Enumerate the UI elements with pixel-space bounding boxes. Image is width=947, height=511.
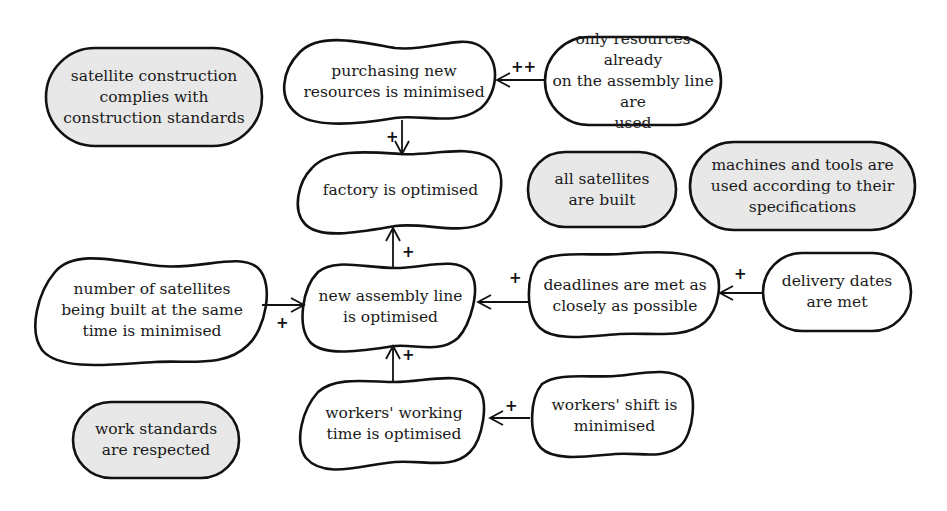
edge-label-working-time-assembly: + — [402, 348, 415, 363]
edge-number-to-assembly — [262, 298, 304, 312]
node-purchasing-minimised: purchasing new resources is minimised — [288, 42, 500, 122]
node-deadlines-met: deadlines are met as closely as possible — [530, 256, 720, 336]
node-only-resources-used: only resources already on the assembly l… — [545, 37, 721, 125]
node-satellite-construction-standards: satellite construction complies with con… — [46, 48, 262, 146]
edge-label-number-assembly: + — [276, 316, 289, 331]
node-machines-tools-specifications: machines and tools are used according to… — [690, 142, 915, 230]
node-number-satellites-minimised: number of satellites being built at the … — [36, 258, 268, 362]
node-delivery-dates-met: delivery dates are met — [763, 253, 911, 331]
edge-label-deadlines-assembly: + — [509, 271, 522, 286]
edge-working-time-to-assembly — [386, 346, 400, 382]
edge-label-assembly-factory: + — [402, 245, 415, 260]
edge-assembly-to-factory — [386, 228, 400, 268]
node-all-satellites-built: all satellites are built — [528, 152, 676, 227]
node-new-assembly-line-optimised: new assembly line is optimised — [303, 266, 478, 348]
edge-deadlines-to-assembly — [478, 295, 530, 309]
edge-label-only-resources-purchasing: ++ — [511, 60, 536, 75]
node-workers-shift-minimised: workers' shift is minimised — [532, 376, 697, 456]
node-factory-optimised: factory is optimised — [298, 152, 503, 228]
edge-label-purchasing-factory: + — [386, 130, 399, 145]
edge-label-delivery-deadlines: + — [734, 267, 747, 282]
node-work-standards-respected: work standards are respected — [73, 402, 239, 478]
node-workers-working-time-optimised: workers' working time is optimised — [300, 382, 488, 466]
edge-delivery-to-deadlines — [720, 286, 763, 300]
edge-label-shift-working-time: + — [505, 399, 518, 414]
